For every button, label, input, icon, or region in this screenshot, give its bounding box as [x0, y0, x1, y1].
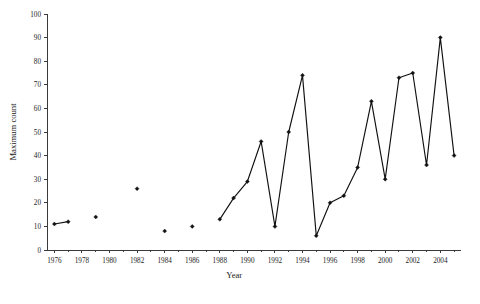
- series-segment: [54, 222, 68, 224]
- data-point-marker: [342, 194, 346, 198]
- data-point-marker: [190, 224, 194, 228]
- data-point-marker: [314, 234, 318, 238]
- x-tick-label: 1982: [130, 257, 145, 265]
- x-axis-ticks: 1976197819801982198419861988199019921994…: [47, 250, 454, 265]
- x-tick-label: 1988: [213, 257, 228, 265]
- y-axis-title: Maximum count: [8, 103, 18, 161]
- y-tick-label: 0: [37, 247, 41, 255]
- data-point-marker: [135, 187, 139, 191]
- data-point-marker: [438, 36, 442, 40]
- y-tick-label: 20: [34, 199, 42, 207]
- data-point-marker: [163, 229, 167, 233]
- chart-axes: [48, 14, 462, 250]
- y-tick-label: 30: [34, 176, 42, 184]
- data-point-marker: [369, 99, 373, 103]
- x-tick-label: 2002: [406, 257, 421, 265]
- y-tick-label: 10: [34, 223, 42, 231]
- series-markers: [52, 36, 456, 238]
- data-point-marker: [52, 222, 56, 226]
- x-tick-label: 1994: [295, 257, 310, 265]
- x-tick-label: 2004: [433, 257, 448, 265]
- series-lines: [54, 38, 454, 236]
- x-axis-title: Year: [226, 270, 242, 280]
- x-tick-label: 1978: [75, 257, 90, 265]
- data-point-marker: [328, 201, 332, 205]
- y-tick-label: 90: [34, 34, 42, 42]
- data-point-marker: [259, 139, 263, 143]
- line-chart: 0102030405060708090100 19761978198019821…: [0, 0, 480, 304]
- data-point-marker: [411, 71, 415, 75]
- caption-strip: [0, 288, 480, 304]
- x-tick-label: 1996: [323, 257, 338, 265]
- y-tick-label: 50: [34, 129, 42, 137]
- x-tick-label: 1986: [185, 257, 200, 265]
- data-point-marker: [383, 177, 387, 181]
- data-point-marker: [356, 165, 360, 169]
- data-point-marker: [425, 163, 429, 167]
- data-point-marker: [452, 154, 456, 158]
- x-tick-label: 1998: [350, 257, 365, 265]
- x-tick-label: 1992: [268, 257, 283, 265]
- y-tick-label: 60: [34, 105, 42, 113]
- y-tick-label: 100: [30, 11, 41, 19]
- x-tick-label: 1976: [47, 257, 62, 265]
- data-point-marker: [94, 215, 98, 219]
- data-point-marker: [300, 73, 304, 77]
- x-tick-label: 1980: [102, 257, 117, 265]
- x-tick-label: 1984: [157, 257, 172, 265]
- data-point-marker: [287, 130, 291, 134]
- data-point-marker: [273, 224, 277, 228]
- data-point-marker: [66, 220, 70, 224]
- y-tick-label: 80: [34, 58, 42, 66]
- series-segment: [220, 38, 454, 236]
- x-tick-label: 1990: [240, 257, 255, 265]
- y-tick-label: 40: [34, 152, 42, 160]
- y-tick-label: 70: [34, 81, 42, 89]
- x-tick-label: 2000: [378, 257, 393, 265]
- y-axis-ticks: 0102030405060708090100: [30, 11, 47, 255]
- data-point-marker: [397, 76, 401, 80]
- figure-container: 0102030405060708090100 19761978198019821…: [0, 0, 480, 304]
